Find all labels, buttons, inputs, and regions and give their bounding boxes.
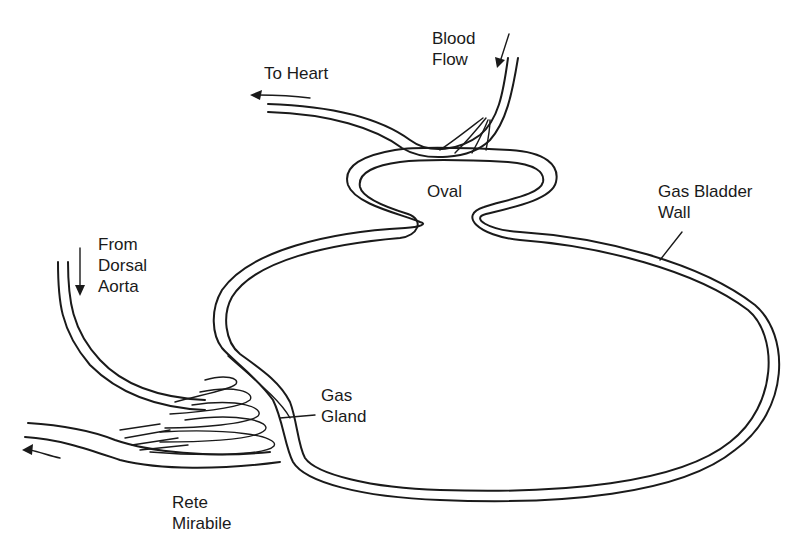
to-heart-arrow: [250, 90, 310, 100]
label-oval: Oval: [427, 181, 462, 202]
label-line: Dorsal: [98, 255, 147, 276]
label-line: Gas: [321, 385, 366, 406]
label-rete-mirabile: Rete Mirabile: [172, 492, 232, 534]
label-line: Aorta: [98, 276, 147, 297]
outflow-arrow: [22, 444, 60, 458]
label-line: Gas Bladder: [658, 181, 753, 202]
gas-bladder-wall-leader: [660, 232, 682, 260]
label-from-dorsal-aorta: From Dorsal Aorta: [98, 234, 147, 297]
gas-bladder-diagram: Blood Flow To Heart Oval Gas Bladder Wal…: [0, 0, 801, 551]
label-line: Gland: [321, 406, 366, 427]
label-line: Rete: [172, 492, 232, 513]
label-gas-bladder-wall: Gas Bladder Wall: [658, 181, 753, 223]
gas-gland-leader: [280, 415, 315, 418]
label-blood-flow: Blood Flow: [432, 28, 475, 70]
label-line: From: [98, 234, 147, 255]
dorsal-aorta-arrow: [75, 248, 85, 296]
label-to-heart: To Heart: [264, 63, 328, 84]
label-line: Wall: [658, 202, 753, 223]
label-gas-gland: Gas Gland: [321, 385, 366, 427]
label-line: Flow: [432, 49, 475, 70]
label-line: Mirabile: [172, 513, 232, 534]
label-line: Blood: [432, 28, 475, 49]
